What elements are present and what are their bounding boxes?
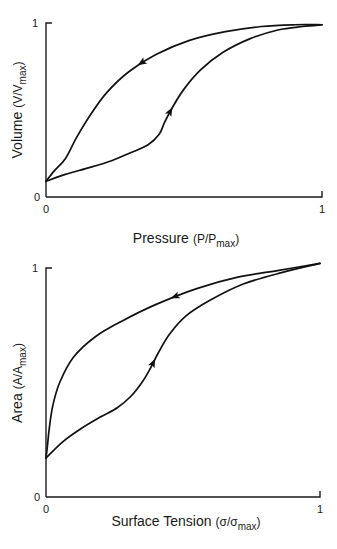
x-axis xyxy=(46,191,322,197)
x-axis-title-unit: (σ/σ xyxy=(216,515,239,529)
x-tick-label-max: 1 xyxy=(319,203,325,215)
x-axis-title-main: Pressure xyxy=(133,230,189,246)
y-axis-title: Volume(V/Vmax) xyxy=(9,62,28,159)
x-axis-title-close: ) xyxy=(235,232,239,246)
y-axis-title-sub: max xyxy=(17,347,28,366)
plot-area xyxy=(46,263,320,458)
direction-arrow-icon xyxy=(136,57,147,68)
y-axis-title-unit: (V/V xyxy=(11,84,25,107)
y-axis-title-close: ) xyxy=(11,62,25,66)
y-axis-title-main: Volume xyxy=(9,112,25,159)
y-axis-title-sub: max xyxy=(17,66,28,85)
direction-arrow-icon xyxy=(165,106,176,117)
x-axis-title-close: ) xyxy=(257,515,261,529)
direction-arrow-icon xyxy=(148,357,158,368)
y-tick-label-max: 1 xyxy=(32,17,38,29)
x-tick-label-zero: 0 xyxy=(43,503,49,515)
y-tick-label-zero: 0 xyxy=(34,491,40,503)
chart-figure: 1 0 0 1 Pressure(P/Pmax) Volume(V/Vmax) … xyxy=(0,0,337,549)
y-axis-title-close: ) xyxy=(11,343,25,347)
x-axis-title: Surface Tension(σ/σmax) xyxy=(111,513,260,532)
series-line-inflation xyxy=(46,25,322,182)
series-line-decreasing-tension xyxy=(46,263,320,458)
series-line-deflation xyxy=(46,25,322,182)
y-axis xyxy=(46,268,52,497)
y-tick-label-max: 1 xyxy=(32,262,38,274)
x-axis-title-main: Surface Tension xyxy=(111,513,211,529)
volume-pressure-chart: 1 0 0 1 Pressure(P/Pmax) Volume(V/Vmax) xyxy=(9,17,325,249)
x-tick-label-zero: 0 xyxy=(43,203,49,215)
x-axis-title: Pressure(P/Pmax) xyxy=(133,230,239,249)
y-axis-title-main: Area xyxy=(9,393,25,423)
x-axis-title-sub: max xyxy=(216,238,235,249)
area-surface-tension-chart: 1 0 0 1 Surface Tension(σ/σmax) Area(A/A… xyxy=(9,262,323,532)
x-axis-title-unit: (P/P xyxy=(193,232,216,246)
x-tick-label-max: 1 xyxy=(317,503,323,515)
y-tick-label-zero: 0 xyxy=(34,191,40,203)
y-axis-title-unit: (A/A xyxy=(11,366,25,389)
x-axis xyxy=(46,491,320,497)
direction-arrow-icon xyxy=(169,292,180,302)
x-axis-title-sub: max xyxy=(238,521,257,532)
y-axis xyxy=(46,23,52,197)
plot-area xyxy=(46,25,322,182)
y-axis-title: Area(A/Amax) xyxy=(9,343,28,423)
